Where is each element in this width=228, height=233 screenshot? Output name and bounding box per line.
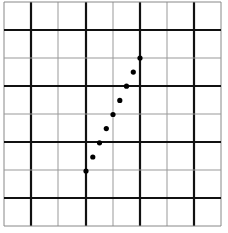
dot (97, 140, 102, 145)
dot (110, 112, 115, 117)
dot (124, 84, 129, 89)
dot (117, 98, 122, 103)
dot (104, 126, 109, 131)
dot (90, 154, 95, 159)
grid-diagram (0, 0, 228, 233)
dot (83, 168, 88, 173)
dot (137, 55, 142, 60)
dot (131, 70, 136, 75)
